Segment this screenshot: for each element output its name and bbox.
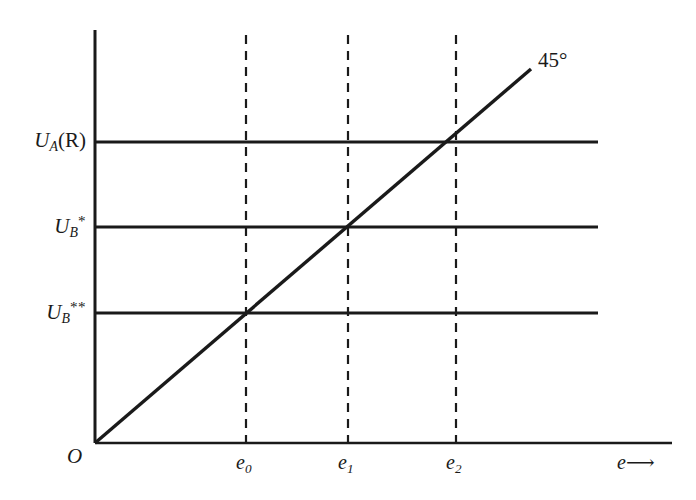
x-axis-variable: e xyxy=(617,451,626,473)
y-tick-sup-2: ** xyxy=(70,299,86,315)
y-tick-label-ua-r: UA(R) xyxy=(0,130,86,154)
y-tick-base-2: U xyxy=(46,300,61,324)
x-axis-label: e⟶ xyxy=(617,452,655,472)
y-tick-paren-0: (R) xyxy=(58,128,86,152)
x-tick-label-e0: e0 xyxy=(236,452,251,475)
y-tick-label-ub-star-star: UB** xyxy=(0,300,86,326)
y-tick-sub-0: A xyxy=(50,139,58,154)
origin-label: O xyxy=(67,446,82,467)
y-tick-base-1: U xyxy=(54,214,69,238)
y-tick-sup-1: * xyxy=(78,213,86,229)
x-tick-sub-1: 1 xyxy=(347,461,354,476)
y-tick-sub-1: B xyxy=(69,225,77,240)
y-tick-sub-2: B xyxy=(61,311,69,326)
right-arrow-icon: ⟶ xyxy=(626,452,655,472)
x-tick-base-2: e xyxy=(446,451,455,473)
forty-five-degree-line xyxy=(95,69,531,443)
x-tick-base-1: e xyxy=(338,451,347,473)
x-tick-sub-0: 0 xyxy=(245,461,252,476)
x-tick-label-e1: e1 xyxy=(338,452,353,475)
angle-annotation-label: 45° xyxy=(538,50,567,71)
y-tick-base-0: U xyxy=(34,128,49,152)
plot-svg xyxy=(0,0,696,500)
x-tick-base-0: e xyxy=(236,451,245,473)
figure-canvas: e⟶ O 45° UA(R) UB* UB** e0 e1 e2 xyxy=(0,0,696,500)
x-tick-label-e2: e2 xyxy=(446,452,461,475)
x-tick-sub-2: 2 xyxy=(455,461,462,476)
y-tick-label-ub-star: UB* xyxy=(0,214,86,240)
